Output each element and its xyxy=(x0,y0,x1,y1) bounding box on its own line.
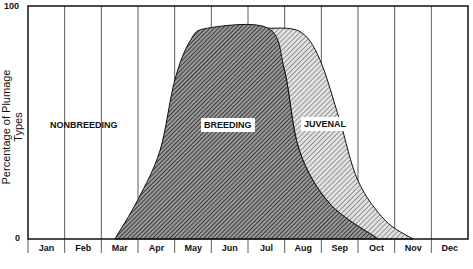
month-label-jan: Jan xyxy=(29,243,65,253)
breeding-label: BREEDING xyxy=(201,118,255,132)
nonbreeding-label: NONBREEDING xyxy=(47,118,121,132)
month-label-jun: Jun xyxy=(212,243,248,253)
month-label-feb: Feb xyxy=(65,243,101,253)
month-label-may: May xyxy=(175,243,211,253)
month-label-dec: Dec xyxy=(432,243,468,253)
month-label-apr: Apr xyxy=(139,243,175,253)
month-label-oct: Oct xyxy=(359,243,395,253)
y-tick-0: 0 xyxy=(15,233,20,243)
month-label-mar: Mar xyxy=(102,243,138,253)
month-label-nov: Nov xyxy=(395,243,431,253)
y-tick-100: 100 xyxy=(4,1,19,11)
month-label-aug: Aug xyxy=(285,243,321,253)
y-axis-label: Percentage of Plumage Types xyxy=(0,57,24,197)
chart-canvas xyxy=(0,0,473,269)
juvenal-label: JUVENAL xyxy=(301,117,349,131)
month-label-jul: Jul xyxy=(249,243,285,253)
month-label-sep: Sep xyxy=(322,243,358,253)
